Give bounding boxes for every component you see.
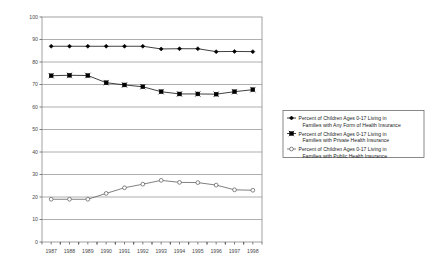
y-tick-label: 90 xyxy=(32,36,38,42)
x-tick-label: 1987 xyxy=(45,248,57,254)
x-tick-label: 1989 xyxy=(82,248,94,254)
data-point-crossed-square xyxy=(177,91,183,97)
data-point-crossed-square xyxy=(195,91,201,97)
data-point-open-circle xyxy=(214,183,218,187)
data-point-crossed-square xyxy=(213,91,219,97)
data-point-open-circle xyxy=(178,180,182,184)
data-point-open-circle xyxy=(49,197,53,201)
x-tick-label: 1995 xyxy=(192,248,204,254)
data-point-crossed-square xyxy=(103,80,109,86)
line-chart: 0102030405060708090100 19871988198919901… xyxy=(0,0,443,277)
x-tick-label: 1997 xyxy=(229,248,241,254)
y-tick-label: 100 xyxy=(29,14,38,20)
data-point-crossed-square xyxy=(289,131,295,137)
y-tick-label: 60 xyxy=(32,104,38,110)
x-tick-label: 1994 xyxy=(174,248,186,254)
data-point-open-circle xyxy=(159,178,163,182)
y-tick-label: 50 xyxy=(32,126,38,132)
data-point-crossed-square xyxy=(158,89,164,95)
legend-label-line2: Families with Public Health Insurance xyxy=(303,153,388,159)
y-tick-label: 80 xyxy=(32,59,38,65)
data-point-open-circle xyxy=(141,182,145,186)
data-point-open-circle xyxy=(290,147,294,151)
data-point-crossed-square xyxy=(67,72,73,78)
legend-label-line2: Families with Any Form of Health Insuran… xyxy=(303,122,401,128)
data-point-open-circle xyxy=(233,188,237,192)
data-point-open-circle xyxy=(196,181,200,185)
y-tick-label: 10 xyxy=(32,216,38,222)
y-tick-label: 20 xyxy=(32,194,38,200)
data-point-crossed-square xyxy=(122,82,128,88)
x-tick-label: 1992 xyxy=(137,248,149,254)
data-point-crossed-square xyxy=(140,84,146,90)
data-point-open-circle xyxy=(251,188,255,192)
legend-label-line1: Percent of Children Ages 0-17 Living in xyxy=(299,115,387,121)
data-point-open-circle xyxy=(104,192,108,196)
x-tick-label: 1996 xyxy=(210,248,222,254)
legend-label-line2: Families with Private Health Insurance xyxy=(303,137,390,143)
y-axis-tick-labels: 0102030405060708090100 xyxy=(29,14,42,245)
data-point-open-circle xyxy=(123,186,127,190)
x-tick-label: 1991 xyxy=(119,248,131,254)
x-tick-label: 1990 xyxy=(100,248,112,254)
chart-container: 0102030405060708090100 19871988198919901… xyxy=(0,0,443,277)
x-tick-label: 1998 xyxy=(247,248,259,254)
data-point-crossed-square xyxy=(232,89,238,95)
chart-legend: Percent of Children Ages 0-17 Living inF… xyxy=(283,111,424,159)
data-point-crossed-square xyxy=(250,87,256,93)
y-tick-label: 40 xyxy=(32,149,38,155)
data-point-open-circle xyxy=(86,197,90,201)
y-tick-label: 70 xyxy=(32,81,38,87)
legend-label-line1: Percent of Children Ages 0-17 Living in xyxy=(299,146,387,152)
x-tick-label: 1993 xyxy=(155,248,167,254)
data-point-open-circle xyxy=(68,197,72,201)
x-tick-label: 1988 xyxy=(64,248,76,254)
data-point-crossed-square xyxy=(48,73,54,79)
legend-label-line1: Percent of Children Ages 0-17 Living in xyxy=(299,131,387,137)
x-axis-tick-labels: 1987198819891990199119921993199419951996… xyxy=(45,248,258,254)
data-point-crossed-square xyxy=(85,73,91,79)
y-tick-label: 30 xyxy=(32,171,38,177)
y-tick-label: 0 xyxy=(35,239,38,245)
